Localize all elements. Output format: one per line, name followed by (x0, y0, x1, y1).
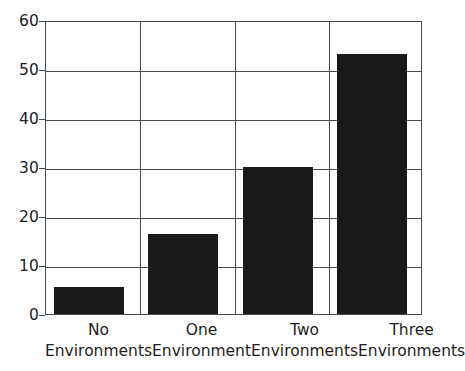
y-tick-label-30: 30 (19, 159, 39, 177)
y-axis: 0102030405060 (0, 21, 39, 315)
x-tick-label-line2-1: Environment (152, 341, 251, 362)
y-tick-label-50: 50 (19, 61, 39, 79)
y-tick-mark-0 (39, 315, 45, 316)
x-tick-label-line1-3: Three (358, 320, 465, 341)
y-tick-label-60: 60 (19, 12, 39, 30)
gridline-x-3 (329, 22, 330, 314)
x-tick-label-line2-2: Environments (251, 341, 358, 362)
y-tick-label-0: 0 (29, 306, 39, 324)
x-tick-label-line1-1: One (152, 320, 251, 341)
x-axis-labels: NoEnvironmentsOneEnvironmentTwoEnvironme… (45, 318, 422, 368)
x-tick-label-line2-0: Environments (45, 341, 152, 362)
x-tick-label-line1-0: No (45, 320, 152, 341)
bar-2 (243, 167, 313, 314)
x-tick-label-0: NoEnvironments (45, 318, 152, 368)
plot-area (45, 21, 422, 315)
bar-3 (337, 54, 407, 314)
bar-1 (148, 234, 218, 314)
gridline-x-2 (235, 22, 236, 314)
x-tick-label-3: ThreeEnvironments (358, 318, 465, 368)
bar-0 (54, 287, 124, 314)
x-tick-label-1: OneEnvironment (152, 318, 251, 368)
y-tick-label-10: 10 (19, 257, 39, 275)
x-tick-label-line2-3: Environments (358, 341, 465, 362)
x-tick-label-2: TwoEnvironments (251, 318, 358, 368)
x-tick-label-line1-2: Two (251, 320, 358, 341)
y-tick-label-20: 20 (19, 208, 39, 226)
gridline-x-1 (140, 22, 141, 314)
y-tick-label-40: 40 (19, 110, 39, 128)
